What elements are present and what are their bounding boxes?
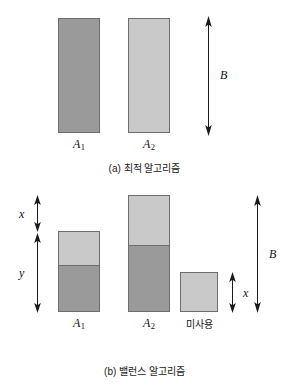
bar-label-a2-subscript: 2	[150, 321, 155, 331]
dimension-label-x-unused: x	[243, 287, 248, 299]
bar-a1-balance	[58, 231, 100, 312]
bar-label-unused: 미사용	[178, 318, 220, 332]
bar-label-a1-subscript: 1	[80, 321, 85, 331]
bar-label-a1: A1	[58, 316, 100, 333]
dimension-arrow-y-left	[32, 233, 43, 313]
panel-caption-b: (b) 밸런스 알고리즘	[0, 363, 289, 378]
bar-segment-dark	[59, 19, 99, 132]
bar-a1-optimal	[58, 18, 100, 133]
bar-segment-light	[181, 273, 217, 311]
bar-unused-balance	[180, 272, 218, 312]
bar-segment-dark	[59, 265, 99, 311]
panel-balance-algorithm: A1 A2 미사용 x y	[0, 185, 289, 390]
bar-segment-dark	[129, 245, 169, 311]
figure-root: A1 A2 B (a) 최적 알고리즘	[0, 0, 289, 390]
dimension-label-y-left: y	[19, 267, 24, 279]
bar-a2-balance	[128, 195, 170, 312]
bar-a2-optimal	[128, 18, 170, 133]
dimension-arrow-x-left	[32, 195, 43, 232]
bar-label-a1-subscript: 1	[80, 142, 85, 152]
bar-segment-light	[129, 19, 169, 132]
bar-segment-light	[59, 232, 99, 265]
bar-label-a2: A2	[128, 316, 170, 333]
bar-segment-light	[129, 196, 169, 245]
dimension-label-x-left: x	[19, 208, 24, 220]
dimension-label-b-optimal: B	[220, 69, 227, 81]
dimension-arrow-x-unused	[227, 272, 238, 313]
panel-optimal-algorithm: A1 A2 B (a) 최적 알고리즘	[0, 0, 289, 185]
bar-label-a2: A2	[128, 137, 170, 154]
dimension-label-b-balance: B	[269, 248, 276, 260]
dimension-arrow-b-balance	[252, 195, 263, 313]
bar-label-a2-subscript: 2	[150, 142, 155, 152]
bar-label-a1: A1	[58, 137, 100, 154]
panel-caption-a: (a) 최적 알고리즘	[0, 160, 289, 175]
dimension-arrow-b-optimal	[203, 16, 214, 136]
